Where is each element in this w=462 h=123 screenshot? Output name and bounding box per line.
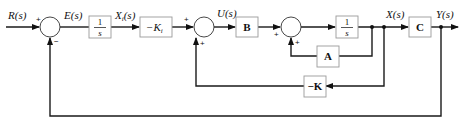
summing-junction-3 [281,17,301,37]
sum2-sign-bottom: + [200,39,205,48]
junction-dot [439,25,443,29]
junction-dot [382,25,386,29]
summing-junction-1 [40,17,60,37]
signal-x: X(s) [385,8,405,21]
sum2-sign-top: + [184,15,189,24]
sum1-sign-bottom: − [54,37,59,46]
int1-numerator: 1 [98,17,103,27]
signal-xi: Xi(s) [114,9,136,23]
signal-e: E(s) [63,9,83,22]
int1-denominator: s [98,28,102,38]
signal-r: R(s) [7,9,27,22]
summing-junction-2 [194,17,214,37]
a-label: A [324,50,332,62]
sum3-sign-left: + [274,30,279,39]
k-label: −K [308,80,323,92]
wire-k-to-sum2 [196,38,304,86]
junction-dot [370,25,374,29]
signal-u: U(s) [217,7,237,20]
block-diagram: + − + + + + 1 s −Ki B 1 s C A −K R(s) E(… [0,0,462,123]
ki-label: −Ki [146,21,163,35]
sum3-sign-bottom: + [295,38,300,47]
sum1-sign-top: + [36,15,41,24]
signal-y: Y(s) [436,8,454,21]
int2-numerator: 1 [345,17,350,27]
c-label: C [416,21,424,33]
wire-y-to-sum1 [50,27,441,116]
int2-denominator: s [345,28,349,38]
b-label: B [243,21,251,33]
